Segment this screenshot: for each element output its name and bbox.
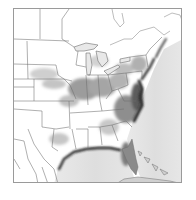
map-canvas [14, 9, 182, 183]
lake-superior [74, 43, 98, 51]
map-frame [13, 8, 182, 183]
northern-coast [110, 9, 182, 45]
lake-michigan [86, 53, 92, 75]
lake-ontario [120, 57, 130, 63]
